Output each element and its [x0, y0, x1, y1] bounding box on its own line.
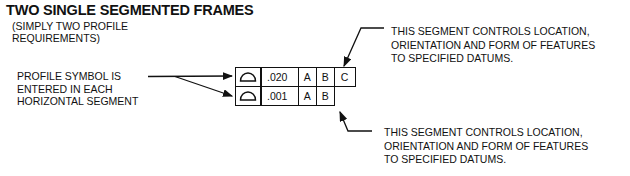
- datum-cell: A: [298, 67, 318, 88]
- note-line: ORIENTATION AND FORM OF FEATURES: [384, 140, 630, 154]
- datum-cell: A: [298, 86, 318, 107]
- profile-of-surface-icon: [235, 67, 262, 88]
- frame-segment-bottom: .001 A B: [236, 87, 356, 106]
- tolerance-value: .001: [260, 86, 299, 107]
- note-top-segment: THIS SEGMENT CONTROLS LOCATION, ORIENTAT…: [391, 25, 630, 66]
- datum-cell: C: [334, 67, 356, 88]
- note-line: THIS SEGMENT CONTROLS LOCATION,: [391, 25, 630, 39]
- leader-arrow-top-note: [344, 28, 384, 66]
- tolerance-value: .020: [260, 67, 299, 88]
- leader-arrow-bottom-row: [175, 77, 232, 97]
- datum-cell: B: [316, 86, 336, 107]
- note-line: TO SPECIFIED DATUMS.: [384, 153, 630, 167]
- note-line: ORIENTATION AND FORM OF FEATURES: [391, 39, 630, 53]
- note-line: THIS SEGMENT CONTROLS LOCATION,: [384, 126, 630, 140]
- datum-cell: B: [316, 67, 336, 88]
- feature-control-frame: .020 A B C .001 A B: [236, 68, 356, 106]
- leader-arrow-bottom-note: [340, 112, 372, 131]
- profile-of-surface-icon: [235, 86, 262, 107]
- leader-arrow-top-row: [148, 76, 232, 77]
- frame-segment-top: .020 A B C: [236, 68, 356, 87]
- note-line: TO SPECIFIED DATUMS.: [391, 52, 630, 66]
- note-bottom-segment: THIS SEGMENT CONTROLS LOCATION, ORIENTAT…: [384, 126, 630, 167]
